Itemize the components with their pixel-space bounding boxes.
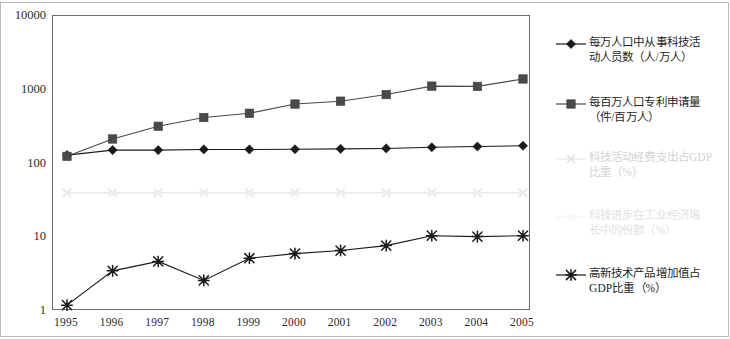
- legend-entry-1[interactable]: 每万人口中从事科技活动人员数（人/万人）: [556, 35, 728, 64]
- legend-entry-4[interactable]: 科技进步在工业经济增长中的份额（%）: [556, 208, 728, 237]
- x-axis-tick-label: 2004: [453, 316, 499, 329]
- data-point-marker: [382, 144, 391, 153]
- x-axis-tick-label: 1999: [225, 316, 271, 329]
- data-point-marker: [472, 231, 483, 242]
- x-axis-tick-label: 1998: [180, 316, 226, 329]
- data-point-marker: [290, 248, 301, 259]
- legend-marker-diamond: [566, 39, 575, 48]
- legend-label-line1: 每百万人口专利申请量: [589, 95, 728, 110]
- y-axis-tick-label: 1: [0, 304, 46, 316]
- data-point-marker: [199, 145, 208, 154]
- legend-label-line2: 长中的份额（%）: [589, 223, 728, 238]
- legend-label-line2: GDP比重（%）: [589, 281, 728, 296]
- data-point-marker: [290, 145, 299, 154]
- legend-label: 科技活动经费支出占GDP比重（%）: [589, 150, 728, 179]
- data-point-marker: [245, 109, 253, 117]
- x-axis-tick-label: 1997: [134, 316, 180, 329]
- data-point-marker: [473, 142, 482, 151]
- data-point-marker: [108, 145, 117, 154]
- data-point-marker: [63, 152, 71, 160]
- data-point-marker: [335, 245, 346, 256]
- data-point-marker: [519, 75, 527, 83]
- legend-label-line1: 每万人口中从事科技活: [589, 35, 728, 50]
- x-axis-tick-label: 2005: [499, 316, 545, 329]
- data-point-marker: [107, 266, 118, 277]
- data-point-marker: [199, 275, 210, 286]
- data-point-marker: [291, 100, 299, 108]
- data-point-marker: [336, 97, 344, 105]
- data-point-marker: [473, 82, 481, 90]
- data-point-marker: [200, 113, 208, 121]
- data-point-marker: [154, 145, 163, 154]
- legend-key-asterisk-icon: [556, 267, 586, 283]
- legend-label: 每百万人口专利申请量（件/百万人）: [589, 95, 728, 124]
- y-axis-tick-label: 100: [0, 157, 46, 169]
- legend-entry-3[interactable]: 科技活动经费支出占GDP比重（%）: [556, 150, 728, 179]
- legend-label: 科技进步在工业经济增长中的份额（%）: [589, 208, 728, 237]
- y-axis-tick-label: 1000: [0, 83, 46, 95]
- legend-entry-5[interactable]: 高新技术产品增加值占GDP比重（%）: [556, 266, 728, 295]
- x-axis-tick-label: 1996: [89, 316, 135, 329]
- data-point-marker: [108, 135, 116, 143]
- chart-figure: 100001000100101 199519961997199819992000…: [0, 0, 730, 339]
- legend-marker-square: [567, 100, 575, 108]
- x-axis-tick-label: 2001: [317, 316, 363, 329]
- data-point-marker: [428, 82, 436, 90]
- x-axis-tick-label: 1995: [43, 316, 89, 329]
- data-point-marker: [382, 90, 390, 98]
- data-point-marker: [518, 230, 529, 241]
- series-canvas: [53, 16, 531, 311]
- legend-label-line2: 动人员数（人/万人）: [589, 50, 728, 65]
- chart-series-4: [63, 190, 526, 197]
- data-point-marker: [427, 143, 436, 152]
- data-point-marker: [381, 240, 392, 251]
- chart-series-5: [62, 230, 529, 310]
- legend-key-square-icon: [556, 96, 586, 112]
- legend-label-line1: 高新技术产品增加值占: [589, 266, 728, 281]
- data-point-marker: [427, 230, 438, 241]
- legend-label: 每万人口中从事科技活动人员数（人/万人）: [589, 35, 728, 64]
- legend-entry-2[interactable]: 每百万人口专利申请量（件/百万人）: [556, 95, 728, 124]
- data-point-marker: [154, 122, 162, 130]
- y-axis-tick-label: 10000: [0, 9, 46, 21]
- legend-label-line1: 科技进步在工业经济增: [589, 208, 728, 223]
- legend-label-line1: 科技活动经费支出占GDP: [589, 150, 728, 165]
- chart-legend: 每万人口中从事科技活动人员数（人/万人）每百万人口专利申请量（件/百万人）科技活…: [556, 18, 728, 318]
- legend-label-line2: 比重（%）: [589, 165, 728, 180]
- data-point-marker: [518, 141, 527, 150]
- x-axis-tick-label: 2000: [271, 316, 317, 329]
- x-axis-tick-label: 2003: [408, 316, 454, 329]
- legend-key-x-icon: [556, 151, 586, 167]
- data-point-marker: [336, 144, 345, 153]
- legend-marker-asterisk: [566, 270, 577, 281]
- y-axis-tick-label: 10: [0, 230, 46, 242]
- data-point-marker: [244, 253, 255, 264]
- x-axis-tick-label: 2002: [362, 316, 408, 329]
- chart-series-1: [62, 141, 527, 160]
- data-point-marker: [153, 256, 164, 267]
- plot-area: [52, 15, 530, 310]
- legend-label: 高新技术产品增加值占GDP比重（%）: [589, 266, 728, 295]
- legend-key-x-hollow-icon: [556, 209, 586, 225]
- legend-key-diamond-icon: [556, 36, 586, 52]
- legend-label-line2: （件/百万人）: [589, 110, 728, 125]
- data-point-marker: [245, 145, 254, 154]
- data-point-marker: [62, 300, 73, 311]
